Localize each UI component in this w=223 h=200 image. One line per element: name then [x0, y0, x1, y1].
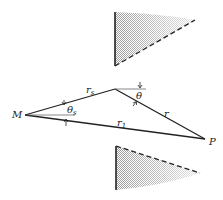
- label-r-s: rs: [86, 84, 95, 97]
- segment-r-1: [25, 115, 205, 139]
- label-r: r: [164, 108, 170, 119]
- segment-r: [115, 89, 205, 139]
- diffraction-geometry-diagram: M P rs r r1 θ θs: [0, 0, 223, 200]
- label-M: M: [11, 109, 23, 120]
- label-theta: θ: [136, 90, 142, 101]
- label-P: P: [208, 136, 216, 147]
- upper-screen: [115, 12, 195, 66]
- diagram-svg: M P rs r r1 θ θs: [0, 0, 223, 200]
- lower-screen: [116, 146, 200, 190]
